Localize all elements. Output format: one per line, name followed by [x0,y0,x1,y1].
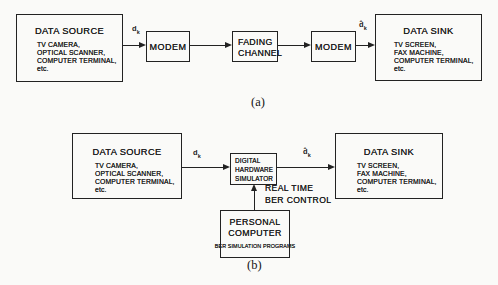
list-item: COMPUTER TERMINAL, etc. [95,178,181,194]
data-source-items-a: TV CAMERA, OPTICAL SCANNER, COMPUTER TER… [17,41,122,73]
list-item: TV SCREEN, [394,41,481,49]
caption-a: (a) [251,95,265,110]
arrow-a4-line [356,45,368,46]
arrow-a3-line [278,45,304,46]
fading-channel-line1: FADING [238,37,277,48]
list-item: FAX MACHINE, [394,49,481,57]
data-source-box-b: DATA SOURCE TV CAMERA, OPTICAL SCANNER, … [72,133,182,199]
modem-rx-label-a: MODEM [315,42,352,52]
list-item: COMPUTER TERMINAL, etc. [37,57,122,73]
signal-label-dk-a: dk [132,24,140,35]
modem-rx-box-a: MODEM [311,31,356,62]
ber-control-label: REAL TIME BER CONTROL [265,182,331,206]
data-source-items-b: TV CAMERA, OPTICAL SCANNER, COMPUTER TER… [73,162,181,194]
signal-label-dkhat-a: d̂k [359,20,367,31]
data-sink-box-a: DATA SINK TV SCREEN, FAX MACHINE, COMPUT… [375,14,482,81]
hardware-simulator-box: DIGITAL HARDWARE SIMULATOR [230,153,277,185]
arrowhead-right-icon [223,164,230,170]
data-source-title-a: DATA SOURCE [17,26,122,36]
data-sink-items-b: TV SCREEN, FAX MACHINE, COMPUTER TERMINA… [336,162,442,194]
data-source-box-a: DATA SOURCE TV CAMERA, OPTICAL SCANNER, … [16,14,123,82]
ber-control-line1: REAL TIME [265,182,331,194]
data-sink-items-a: TV SCREEN, FAX MACHINE, COMPUTER TERMINA… [376,41,481,73]
arrowhead-right-icon [139,42,146,48]
data-sink-box-b: DATA SINK TV SCREEN, FAX MACHINE, COMPUT… [335,133,443,199]
simulator-line2: HARDWARE [235,166,276,175]
arrow-a2-line [190,45,225,46]
data-source-title-b: DATA SOURCE [73,147,181,157]
arrowhead-right-icon [368,42,375,48]
arrowhead-right-icon [304,42,311,48]
arrow-b1-line [182,167,223,168]
list-item: TV SCREEN, [357,162,442,170]
data-sink-title-b: DATA SINK [336,147,442,157]
control-arrow-line [254,191,255,210]
list-item: OPTICAL SCANNER, [95,170,181,178]
modem-tx-box-a: MODEM [146,31,190,62]
list-item: TV CAMERA, [95,162,181,170]
list-item: COMPUTER TERMINAL, etc. [394,57,481,73]
personal-computer-subtitle: BER SIMULATION PROGRAMS [215,243,295,249]
figure-canvas: DATA SOURCE TV CAMERA, OPTICAL SCANNER, … [0,0,498,285]
arrow-b2-line [277,167,328,168]
simulator-line1: DIGITAL [235,157,276,166]
modem-tx-label-a: MODEM [150,42,187,52]
signal-label-dkhat-b: d̂k [303,147,311,158]
arrowhead-right-icon [225,42,232,48]
fading-channel-line2: CHANNEL [238,48,277,59]
list-item: OPTICAL SCANNER, [37,49,122,57]
personal-computer-box: PERSONAL COMPUTER BER SIMULATION PROGRAM… [220,210,290,258]
arrowhead-right-icon [328,164,335,170]
list-item: TV CAMERA, [37,41,122,49]
ber-control-line2: BER CONTROL [265,194,331,206]
list-item: FAX MACHINE, [357,170,442,178]
signal-label-dk-b: dk [193,148,201,159]
fading-channel-box-a: FADING CHANNEL [232,31,278,62]
data-sink-title-a: DATA SINK [376,26,481,36]
caption-b: (b) [247,258,262,273]
list-item: COMPUTER TERMINAL, etc. [357,178,442,194]
personal-computer-title: PERSONAL COMPUTER [228,217,282,239]
arrowhead-up-icon [251,184,257,191]
arrow-a1-line [123,45,140,46]
